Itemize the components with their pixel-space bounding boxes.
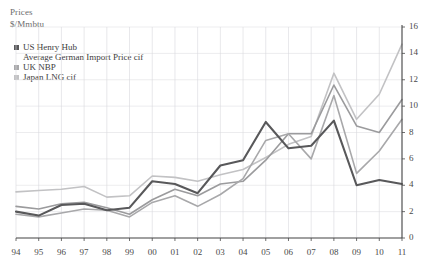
x-axis-tick-label: 97 — [74, 247, 94, 257]
x-axis-tick-label: 98 — [97, 247, 117, 257]
x-axis-tick-label: 05 — [256, 247, 276, 257]
x-axis-tick-label: 01 — [165, 247, 185, 257]
plot-area — [0, 0, 432, 269]
x-axis-tick-label: 09 — [347, 247, 367, 257]
y-axis-tick-label: 12 — [409, 74, 425, 84]
y-axis-tick-label: 10 — [409, 100, 425, 110]
y-axis-tick-label: 6 — [409, 153, 425, 163]
y-axis-tick-label: 4 — [409, 179, 425, 189]
x-axis-tick-label: 06 — [278, 247, 298, 257]
x-axis-tick-label: 08 — [324, 247, 344, 257]
series-lines — [16, 44, 402, 217]
x-axis-tick-label: 94 — [6, 247, 26, 257]
x-axis-tick-label: 07 — [301, 247, 321, 257]
y-axis-tick-label: 14 — [409, 47, 425, 57]
series-line — [16, 121, 402, 216]
price-line-chart: Prices $/Mmbtu US Henry HubAverage Germa… — [0, 0, 432, 269]
x-axis-tick-label: 10 — [369, 247, 389, 257]
y-axis-tick-label: 2 — [409, 206, 425, 216]
series-line — [16, 96, 402, 217]
x-axis-tick-label: 00 — [142, 247, 162, 257]
x-axis-tick-label: 04 — [233, 247, 253, 257]
y-axis-tick-label: 0 — [409, 232, 425, 242]
x-axis-tick-label: 96 — [51, 247, 71, 257]
y-axis-tick-label: 16 — [409, 21, 425, 31]
x-axis-tick-label: 99 — [120, 247, 140, 257]
x-axis-tick-label: 11 — [392, 247, 412, 257]
x-axis-tick-label: 95 — [29, 247, 49, 257]
series-line — [16, 44, 402, 197]
x-axis-tick-label: 03 — [210, 247, 230, 257]
y-axis-tick-label: 8 — [409, 127, 425, 137]
x-axis-tick-label: 02 — [188, 247, 208, 257]
axis-lines — [16, 25, 405, 241]
